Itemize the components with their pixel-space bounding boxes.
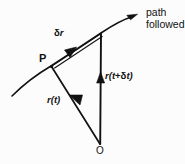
r-of-t-arrowhead	[69, 95, 82, 105]
trajectory-arrowhead	[127, 14, 138, 20]
label-r-dt-close: )	[130, 70, 133, 81]
label-delta-r: δr	[54, 28, 63, 38]
point-p-marker	[50, 65, 53, 68]
vector-diagram-figure: P δr r(t) r(t+δt) O path followed	[0, 0, 185, 164]
label-r-of-t-plus-delta-t: r(t+δt)	[105, 71, 133, 81]
label-r-of-t: r(t)	[47, 95, 60, 105]
delta-r-vector-line-b	[54, 36, 102, 68]
label-path-followed: path followed	[146, 7, 185, 30]
r-of-t-vector-line	[52, 67, 101, 145]
label-delta-r-r: r	[60, 27, 64, 38]
r-of-t-plus-dt-vector-line	[100, 34, 101, 145]
label-r-of-t-close: )	[57, 94, 60, 105]
label-path-followed-line2: followed	[146, 19, 185, 31]
label-point-p: P	[39, 53, 46, 65]
delta-r-vector-line-a	[53, 34, 102, 66]
label-origin: O	[96, 146, 104, 157]
label-r-of-t-open: r(	[47, 94, 54, 105]
r-of-t-plus-dt-arrowhead	[97, 72, 105, 83]
label-r-dt-open: r(	[105, 70, 112, 81]
label-path-followed-line1: path	[146, 7, 185, 19]
